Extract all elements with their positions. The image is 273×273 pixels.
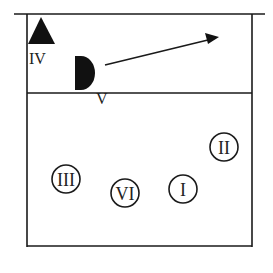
player-label-iv: IV xyxy=(29,50,46,67)
player-label-v: V xyxy=(96,90,108,107)
player-i: I xyxy=(169,175,197,203)
court-diagram: IV V III VI I II xyxy=(0,0,273,273)
player-label-vi: VI xyxy=(116,184,135,204)
player-iii: III xyxy=(52,165,80,193)
player-vi: VI xyxy=(111,179,139,207)
movement-arrow-line xyxy=(105,39,212,65)
player-label-ii: II xyxy=(218,138,230,158)
arrow-head-icon xyxy=(205,33,219,44)
player-label-i: I xyxy=(180,180,186,200)
player-label-iii: III xyxy=(57,170,75,190)
triangle-icon xyxy=(28,17,55,44)
half-circle-icon xyxy=(75,56,95,90)
player-ii: II xyxy=(210,133,238,161)
